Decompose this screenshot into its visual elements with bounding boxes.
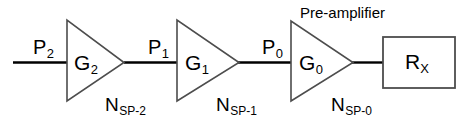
label-input-power-p1: P1 [148, 37, 169, 57]
label-noise-nsp-1: NSP-1 [216, 95, 256, 114]
label-gain-g1: G1 [185, 52, 209, 73]
amplifier-chain-diagram: P2 P1 P0 G2 G1 G0 NSP-2 NSP-1 NSP-0 Pre-… [0, 0, 471, 126]
label-noise-nsp-0: NSP-0 [331, 95, 371, 114]
label-noise-nsp-2: NSP-2 [105, 95, 145, 114]
label-input-power-p0: P0 [262, 37, 283, 57]
label-gain-g0: G0 [299, 52, 323, 73]
label-receiver-rx: RX [405, 51, 429, 72]
label-input-power-p2: P2 [33, 37, 54, 57]
label-gain-g2: G2 [74, 52, 98, 73]
label-pre-amplifier-caption: Pre-amplifier [300, 5, 385, 20]
